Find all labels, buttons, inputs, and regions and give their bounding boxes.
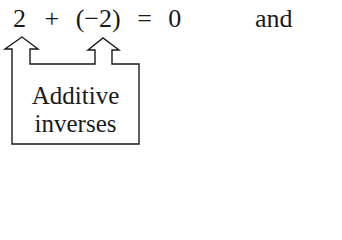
callout-line-2: inverses: [12, 110, 139, 138]
callout-label: Additive inverses: [12, 82, 139, 138]
callout-line-1: Additive: [12, 82, 139, 110]
